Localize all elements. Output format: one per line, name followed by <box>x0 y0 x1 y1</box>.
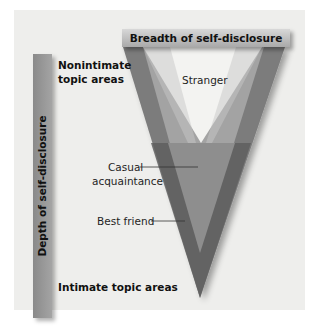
best-friend-label: Best friend <box>97 215 154 227</box>
breadth-header-bar: Breadth of self-disclosure <box>122 29 290 47</box>
stranger-label: Stranger <box>182 74 228 86</box>
casual-label-line2: acquaintance <box>92 175 163 187</box>
nonintimate-label-line1: Nonintimate <box>58 59 131 71</box>
intimate-topic-areas-label: Intimate topic areas <box>58 281 178 293</box>
depth-label: Depth of self-disclosure <box>36 115 48 256</box>
casual-label-line1: Casual <box>108 161 143 173</box>
nonintimate-label-line2: topic areas <box>58 73 124 85</box>
breadth-label: Breadth of self-disclosure <box>130 32 283 44</box>
